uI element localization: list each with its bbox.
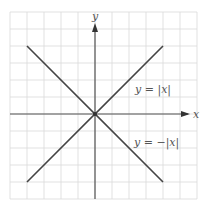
neg-abs-function-label: y = −|x|	[133, 136, 179, 150]
y-axis-label: y	[91, 10, 99, 23]
graph: x y y = |x| y = −|x|	[0, 0, 209, 207]
x-axis-arrow-icon	[181, 111, 190, 117]
x-axis-label: x	[193, 108, 200, 121]
abs-function-label: y = |x|	[134, 83, 171, 97]
origin-point	[93, 112, 97, 116]
y-axis-arrow-icon	[92, 23, 98, 32]
